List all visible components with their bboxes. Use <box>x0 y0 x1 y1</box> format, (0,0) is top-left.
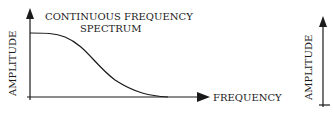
title-line1: CONTINUOUS FREQUENCY <box>45 11 193 22</box>
right-y-label: AMPLITUDE <box>303 35 314 101</box>
left-panel: CONTINUOUS FREQUENCY SPECTRUM FREQUENCY … <box>7 8 282 103</box>
left-y-arrow-icon <box>26 8 34 19</box>
title-line2: SPECTRUM <box>80 23 141 34</box>
left-x-arrow-icon <box>197 92 210 102</box>
right-y-arrow-icon <box>319 16 327 27</box>
left-y-label: AMPLITUDE <box>7 31 18 97</box>
spectrum-curve <box>30 33 168 97</box>
right-panel: AMPLITUDE <box>303 16 330 107</box>
frequency-spectrum-diagram: CONTINUOUS FREQUENCY SPECTRUM FREQUENCY … <box>0 0 333 113</box>
left-x-label: FREQUENCY <box>213 92 282 103</box>
